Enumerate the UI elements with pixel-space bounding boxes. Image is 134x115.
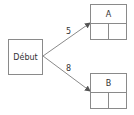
node-a-cell-right xyxy=(109,23,127,39)
node-b[interactable]: B xyxy=(90,73,127,109)
node-b-label: B xyxy=(106,79,112,88)
start-node-label: Début xyxy=(13,53,37,62)
edge-start-to-b xyxy=(43,56,90,91)
node-a-cell-left xyxy=(91,23,109,39)
start-node[interactable]: Début xyxy=(8,39,43,75)
node-a-label: A xyxy=(106,10,111,19)
edge-label-b: 8 xyxy=(66,64,71,73)
node-a[interactable]: A xyxy=(90,4,127,40)
node-b-cell-right xyxy=(109,92,127,108)
edge-label-a: 5 xyxy=(66,27,71,36)
node-b-cell-left xyxy=(91,92,109,108)
